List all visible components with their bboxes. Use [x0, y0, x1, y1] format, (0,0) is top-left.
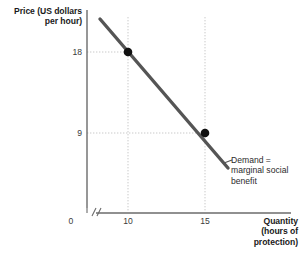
y-axis-title-line-1: Price (US dollars [14, 6, 82, 16]
y-tick-label-9: 9 [56, 128, 82, 138]
x-axis-title: Quantity(hours ofprotection) [208, 216, 298, 247]
demand-annotation-line-3: benefit [231, 176, 257, 186]
y-tick-label-18: 18 [56, 47, 82, 57]
axis-break-mark [87, 208, 101, 216]
demand-curve-line [100, 19, 228, 168]
x-axis-title-line-1: Quantity [264, 216, 298, 226]
demand-annotation-line-1: Demand = [231, 155, 271, 165]
x-axis-title-line-2: (hours of [261, 226, 298, 236]
x-tick-label-15: 15 [192, 216, 218, 226]
data-point-15-9 [201, 129, 210, 138]
y-axis-title: Price (US dollarsper hour) [4, 6, 82, 27]
data-point-10-18 [124, 48, 133, 57]
demand-curve-annotation: Demand =marginal socialbenefit [231, 155, 301, 186]
origin-label: 0 [58, 216, 84, 226]
demand-annotation-line-2: marginal social [231, 165, 288, 175]
economics-demand-chart: Price (US dollarsper hour) Quantity(hour… [0, 0, 301, 256]
x-axis-title-line-3: protection) [254, 237, 298, 247]
y-axis-title-line-2: per hour) [45, 16, 82, 26]
x-tick-label-10: 10 [115, 216, 141, 226]
